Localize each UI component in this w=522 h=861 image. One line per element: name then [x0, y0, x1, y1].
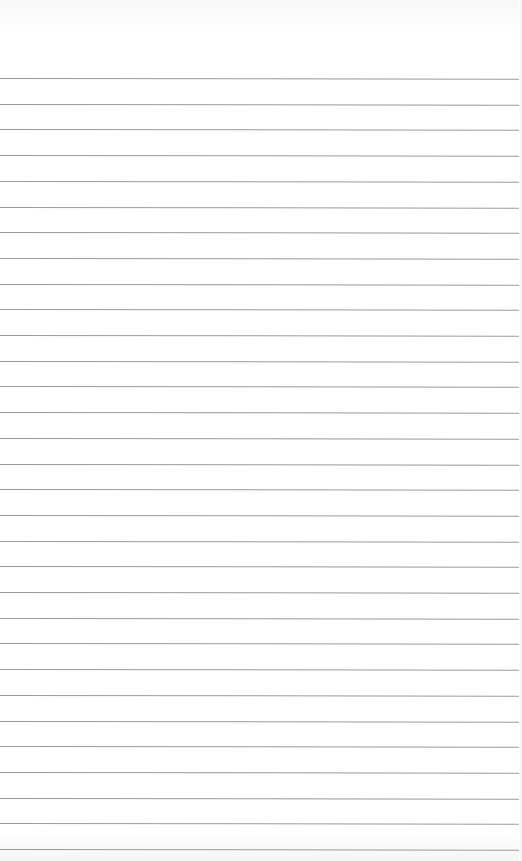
ruled-line [0, 309, 520, 311]
ruled-line [0, 669, 520, 671]
ruled-line [0, 695, 520, 697]
ruled-line [0, 258, 520, 260]
ruled-line [0, 721, 520, 723]
ruled-line [0, 386, 520, 388]
ruled-line [0, 772, 520, 774]
ruled-line [0, 746, 520, 748]
ruled-line [0, 129, 520, 131]
ruled-line [0, 207, 520, 209]
ruled-line [0, 104, 520, 106]
lined-paper-sheet [0, 0, 522, 861]
ruled-line [0, 823, 520, 825]
ruled-line [0, 849, 520, 851]
ruled-line [0, 541, 520, 543]
ruled-line [0, 464, 520, 466]
ruled-line [0, 618, 520, 620]
ruled-line [0, 592, 520, 594]
ruled-line [0, 566, 520, 568]
ruled-line [0, 181, 520, 183]
ruled-line [0, 798, 520, 800]
ruled-line [0, 643, 520, 645]
ruled-line [0, 361, 520, 363]
ruled-line [0, 489, 520, 491]
ruled-line [0, 78, 520, 80]
ruled-line [0, 335, 520, 337]
ruled-line [0, 155, 520, 157]
ruled-line [0, 438, 520, 440]
ruled-line [0, 412, 520, 414]
ruled-line [0, 284, 520, 286]
ruled-line [0, 232, 520, 234]
ruled-line [0, 515, 520, 517]
